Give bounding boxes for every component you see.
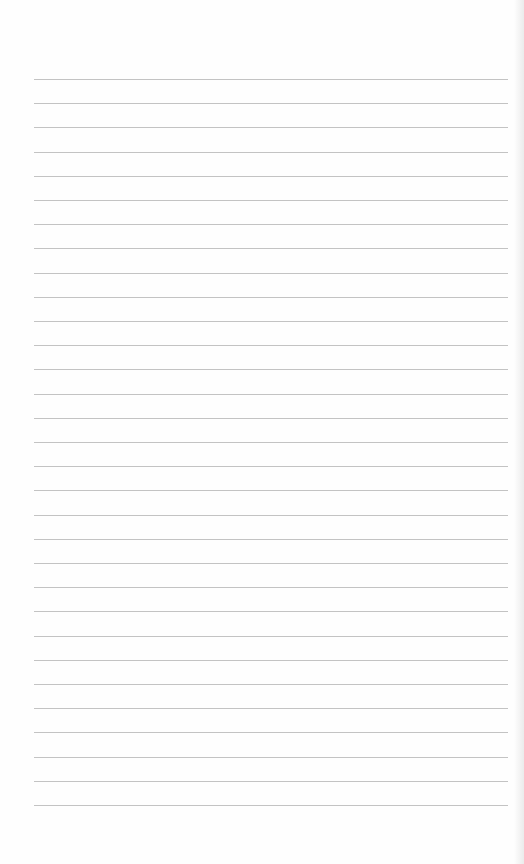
ruled-line xyxy=(34,273,508,274)
ruled-line xyxy=(34,660,508,661)
ruled-line xyxy=(34,442,508,443)
ruled-line xyxy=(34,103,508,104)
ruled-line xyxy=(34,418,508,419)
ruled-line xyxy=(34,394,508,395)
ruled-line xyxy=(34,297,508,298)
ruled-line xyxy=(34,539,508,540)
lined-paper xyxy=(0,0,524,864)
ruled-line xyxy=(34,684,508,685)
ruled-line xyxy=(34,805,508,806)
ruled-line xyxy=(34,466,508,467)
ruled-line xyxy=(34,224,508,225)
ruled-line xyxy=(34,152,508,153)
ruled-line xyxy=(34,200,508,201)
ruled-line xyxy=(34,611,508,612)
ruled-line xyxy=(34,587,508,588)
ruled-line xyxy=(34,248,508,249)
ruled-line xyxy=(34,781,508,782)
ruled-line xyxy=(34,732,508,733)
ruled-line xyxy=(34,563,508,564)
ruled-line xyxy=(34,757,508,758)
ruled-line xyxy=(34,176,508,177)
ruled-line xyxy=(34,515,508,516)
ruled-line xyxy=(34,636,508,637)
ruled-line xyxy=(34,321,508,322)
ruled-line xyxy=(34,79,508,80)
ruled-line xyxy=(34,369,508,370)
ruled-line xyxy=(34,490,508,491)
ruled-line xyxy=(34,127,508,128)
ruled-line xyxy=(34,708,508,709)
ruled-line xyxy=(34,345,508,346)
page-edge-shadow xyxy=(514,0,524,864)
